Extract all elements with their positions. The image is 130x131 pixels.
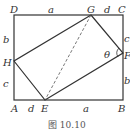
label-BE: a [83, 103, 89, 114]
label-E: E [40, 103, 49, 114]
label-GC: d [104, 4, 110, 15]
label-F: F [123, 50, 130, 61]
label-G: G [87, 4, 95, 15]
label-C: C [118, 4, 126, 15]
label-DG: a [48, 4, 54, 15]
label-EA: d [28, 103, 34, 114]
label-CF: c [124, 33, 130, 44]
figure-caption: 图 10.10 [48, 120, 86, 130]
label-H: H [2, 57, 12, 68]
diagonal-GE [45, 15, 91, 100]
geometry-figure: D a G d C b H c c F b θ A d E a B 图 10.1… [0, 0, 130, 131]
label-AH: c [3, 78, 9, 89]
label-HD: b [3, 34, 9, 45]
label-A: A [10, 103, 18, 114]
label-FB: b [124, 75, 130, 86]
label-B: B [117, 103, 125, 114]
label-theta: θ [104, 49, 110, 60]
label-D: D [9, 4, 18, 15]
